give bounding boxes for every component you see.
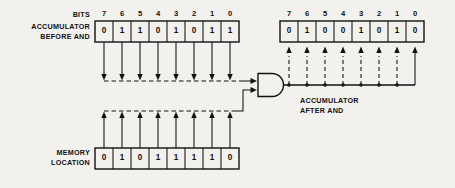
memory-location-label: MEMORY LOCATION xyxy=(18,148,90,167)
bit-cell: 0 xyxy=(95,21,113,41)
bit-number: 1 xyxy=(203,9,221,18)
gate-input-arrow-top xyxy=(251,78,258,84)
bit-number: 2 xyxy=(370,9,388,18)
bit-cell: 1 xyxy=(167,148,185,168)
accumulator-after-dashed-lines xyxy=(289,56,397,85)
bit-cell: 0 xyxy=(406,21,424,41)
bit-cell: 1 xyxy=(185,148,203,168)
bit-cell: 0 xyxy=(185,21,203,41)
bit-cell: 1 xyxy=(149,148,167,168)
bit-number: 7 xyxy=(95,9,113,18)
bit-cell: 0 xyxy=(316,21,334,41)
bit-number: 1 xyxy=(388,9,406,18)
bit-number: 3 xyxy=(352,9,370,18)
bit-cell: 1 xyxy=(388,21,406,41)
bit-cell: 1 xyxy=(167,21,185,41)
bit-number: 4 xyxy=(149,9,167,18)
bit-cell: 1 xyxy=(113,148,131,168)
bit-number: 5 xyxy=(316,9,334,18)
accumulator-before-label: ACCUMULATOR BEFORE AND xyxy=(8,22,90,41)
bit-number: 2 xyxy=(185,9,203,18)
bit-cell: 0 xyxy=(95,148,113,168)
bit-number: 4 xyxy=(334,9,352,18)
bits-label: BITS xyxy=(20,10,90,20)
bit-number: 7 xyxy=(280,9,298,18)
bit-cell: 1 xyxy=(131,21,149,41)
bit-cell: 1 xyxy=(352,21,370,41)
bit-cell: 1 xyxy=(203,21,221,41)
accumulator-before-drop-lines xyxy=(104,42,230,76)
bit-number: 0 xyxy=(406,9,424,18)
bit-number: 6 xyxy=(298,9,316,18)
bit-number: 5 xyxy=(131,9,149,18)
bit-cell: 1 xyxy=(113,21,131,41)
bit-cell: 0 xyxy=(221,148,239,168)
memory-location-arrowheads xyxy=(101,112,232,119)
accumulator-after-arrowheads xyxy=(286,47,417,54)
bit-cell: 1 xyxy=(298,21,316,41)
bit-number: 6 xyxy=(113,9,131,18)
bit-number: 0 xyxy=(221,9,239,18)
and-operation-diagram: 7 6 5 4 3 2 1 0 7 6 5 4 3 2 1 0 0 1 1 0 … xyxy=(0,0,455,188)
bit-cell: 1 xyxy=(203,148,221,168)
bit-cell: 1 xyxy=(221,21,239,41)
bit-cell: 0 xyxy=(280,21,298,41)
gate-input-arrow-bottom xyxy=(251,87,258,93)
bit-cell: 0 xyxy=(334,21,352,41)
memory-location-rise-lines xyxy=(104,116,230,148)
bit-number: 3 xyxy=(167,9,185,18)
bit-cell: 0 xyxy=(370,21,388,41)
accumulator-before-arrowheads xyxy=(101,74,232,81)
accumulator-after-label: ACCUMULATOR AFTER AND xyxy=(300,96,410,115)
bit-cell: 0 xyxy=(149,21,167,41)
memory-location-bus xyxy=(104,90,253,111)
and-gate-symbol xyxy=(258,74,284,97)
bit-cell: 0 xyxy=(131,148,149,168)
gate-output-bus xyxy=(284,50,416,85)
